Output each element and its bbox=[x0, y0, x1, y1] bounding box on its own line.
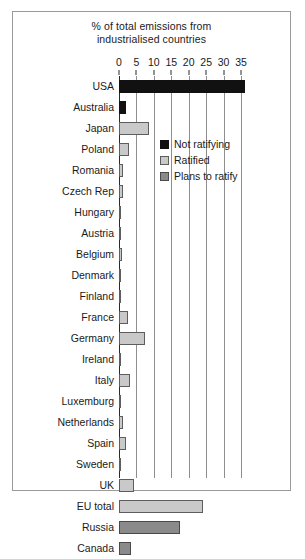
bar-row: Denmark bbox=[119, 265, 241, 286]
bar-row: Japan bbox=[119, 118, 241, 139]
x-tick-mark-5 bbox=[136, 70, 137, 75]
category-label-germany: Germany bbox=[71, 328, 114, 349]
bar-eu-total bbox=[119, 500, 203, 513]
bar-usa bbox=[119, 80, 245, 93]
bar-row: Canada bbox=[119, 538, 241, 559]
bar-netherlands bbox=[119, 416, 123, 429]
category-label-hungary: Hungary bbox=[74, 202, 114, 223]
bar-denmark bbox=[119, 269, 121, 282]
bar-ireland bbox=[119, 353, 121, 366]
category-label-poland: Poland bbox=[81, 139, 114, 160]
legend-label-ratified: Ratified bbox=[174, 154, 210, 166]
category-label-finland: Finland bbox=[80, 286, 114, 307]
x-tick-mark-10 bbox=[153, 70, 154, 75]
category-label-usa: USA bbox=[92, 76, 114, 97]
bar-row: Netherlands bbox=[119, 412, 241, 433]
bar-row: Australia bbox=[119, 97, 241, 118]
legend-item-not-ratifying: Not ratifying bbox=[160, 137, 278, 151]
legend-label-plans: Plans to ratify bbox=[174, 170, 238, 182]
bar-row: Austria bbox=[119, 223, 241, 244]
bar-japan bbox=[119, 122, 149, 135]
bar-poland bbox=[119, 143, 129, 156]
x-tick-label-15: 15 bbox=[165, 56, 177, 68]
x-tick-label-5: 5 bbox=[134, 56, 140, 68]
bar-canada bbox=[119, 542, 131, 555]
x-axis-tick-labels: 05101520253035 bbox=[119, 56, 241, 69]
chart-legend: Not ratifyingRatifiedPlans to ratify bbox=[160, 137, 278, 185]
bar-finland bbox=[119, 290, 121, 303]
x-tick-mark-30 bbox=[223, 70, 224, 75]
category-label-france: France bbox=[81, 307, 114, 328]
category-label-sweden: Sweden bbox=[76, 454, 114, 475]
bar-row: Italy bbox=[119, 370, 241, 391]
bar-row: Ireland bbox=[119, 349, 241, 370]
category-label-russia: Russia bbox=[82, 517, 114, 538]
category-label-denmark: Denmark bbox=[71, 265, 114, 286]
bar-row: Spain bbox=[119, 433, 241, 454]
chart-title: % of total emissions from industrialised… bbox=[13, 20, 290, 46]
bar-row: Belgium bbox=[119, 244, 241, 265]
bar-row: Luxemburg bbox=[119, 391, 241, 412]
category-label-japan: Japan bbox=[85, 118, 114, 139]
x-tick-label-30: 30 bbox=[218, 56, 230, 68]
bar-row: Finland bbox=[119, 286, 241, 307]
category-label-australia: Australia bbox=[73, 97, 114, 118]
bar-belgium bbox=[119, 248, 122, 261]
chart-title-line-2: industrialised countries bbox=[13, 33, 290, 46]
bar-australia bbox=[119, 101, 126, 114]
bar-germany bbox=[119, 332, 145, 345]
category-label-canada: Canada bbox=[77, 538, 114, 559]
bar-russia bbox=[119, 521, 180, 534]
bar-row: Germany bbox=[119, 328, 241, 349]
category-label-eu-total: EU total bbox=[77, 496, 114, 517]
bar-row: France bbox=[119, 307, 241, 328]
x-tick-mark-20 bbox=[188, 70, 189, 75]
bar-spain bbox=[119, 437, 126, 450]
bar-row: Russia bbox=[119, 517, 241, 538]
category-label-ireland: Ireland bbox=[82, 349, 114, 370]
bar-luxemburg bbox=[119, 395, 121, 408]
category-label-austria: Austria bbox=[81, 223, 114, 244]
legend-swatch-plans bbox=[160, 172, 169, 181]
x-tick-label-25: 25 bbox=[200, 56, 212, 68]
bar-row: USA bbox=[119, 76, 241, 97]
x-tick-mark-0 bbox=[119, 70, 120, 75]
bar-sweden bbox=[119, 458, 121, 471]
bar-czech-rep bbox=[119, 185, 123, 198]
bar-row: Hungary bbox=[119, 202, 241, 223]
chart-title-line-1: % of total emissions from bbox=[13, 20, 290, 33]
legend-swatch-ratified bbox=[160, 156, 169, 165]
bar-romania bbox=[119, 164, 123, 177]
bar-austria bbox=[119, 227, 121, 240]
category-label-romania: Romania bbox=[72, 160, 114, 181]
legend-label-not-ratifying: Not ratifying bbox=[174, 138, 230, 150]
x-tick-mark-15 bbox=[171, 70, 172, 75]
chart-figure: % of total emissions from industrialised… bbox=[12, 11, 291, 491]
legend-item-ratified: Ratified bbox=[160, 153, 278, 167]
category-label-spain: Spain bbox=[87, 433, 114, 454]
x-tick-label-10: 10 bbox=[148, 56, 160, 68]
x-tick-label-35: 35 bbox=[235, 56, 247, 68]
bar-france bbox=[119, 311, 128, 324]
category-label-uk: UK bbox=[99, 475, 114, 496]
category-label-italy: Italy bbox=[95, 370, 114, 391]
x-tick-mark-35 bbox=[241, 70, 242, 75]
bar-uk bbox=[119, 479, 134, 492]
category-label-belgium: Belgium bbox=[76, 244, 114, 265]
bar-row: Sweden bbox=[119, 454, 241, 475]
legend-swatch-not-ratifying bbox=[160, 140, 169, 149]
x-tick-label-0: 0 bbox=[116, 56, 122, 68]
category-label-netherlands: Netherlands bbox=[57, 412, 114, 433]
x-tick-label-20: 20 bbox=[183, 56, 195, 68]
bar-row: EU total bbox=[119, 496, 241, 517]
bar-italy bbox=[119, 374, 130, 387]
bar-row: UK bbox=[119, 475, 241, 496]
category-label-czech-rep: Czech Rep bbox=[62, 181, 114, 202]
legend-item-plans: Plans to ratify bbox=[160, 169, 278, 183]
x-tick-mark-25 bbox=[206, 70, 207, 75]
bar-hungary bbox=[119, 206, 121, 219]
category-label-luxemburg: Luxemburg bbox=[61, 391, 114, 412]
